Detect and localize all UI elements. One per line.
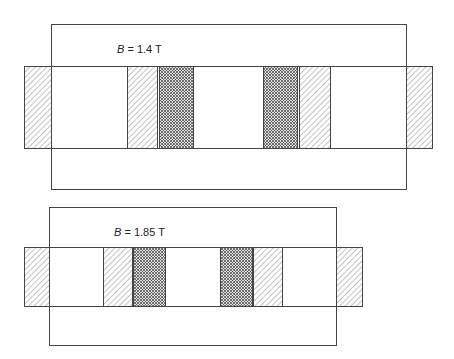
strip bbox=[25, 248, 363, 307]
hatch-block bbox=[337, 248, 363, 307]
hatch-block bbox=[25, 248, 50, 307]
crosshatch-block bbox=[221, 248, 253, 307]
crosshatch-block bbox=[160, 67, 194, 149]
field-value: = 1.4 T bbox=[124, 43, 161, 55]
hatch-block bbox=[407, 67, 433, 149]
magnet-diagram-canvas bbox=[0, 0, 454, 359]
crosshatch-block bbox=[264, 67, 298, 149]
hatch-block bbox=[104, 248, 133, 307]
hatch-block bbox=[254, 248, 283, 307]
hatch-block bbox=[128, 67, 158, 149]
field-label-bottom: B = 1.85 T bbox=[114, 226, 165, 238]
hatch-block bbox=[25, 67, 52, 149]
field-value: = 1.85 T bbox=[121, 226, 165, 238]
hatch-block bbox=[300, 67, 331, 149]
strip bbox=[25, 67, 433, 149]
crosshatch-block bbox=[134, 248, 166, 307]
field-label-top: B = 1.4 T bbox=[117, 43, 162, 55]
